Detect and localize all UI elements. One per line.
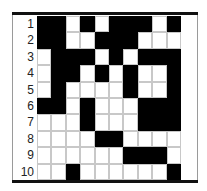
grid-cell[interactable] <box>66 32 80 48</box>
grid-cell[interactable] <box>80 164 94 180</box>
grid-cell[interactable] <box>152 114 166 130</box>
grid-cell[interactable] <box>109 65 123 81</box>
grid-cell[interactable] <box>123 32 137 48</box>
grid-cell[interactable] <box>66 16 80 32</box>
grid-cell[interactable] <box>152 16 166 32</box>
grid-cell[interactable] <box>138 32 152 48</box>
grid-cell[interactable] <box>66 114 80 130</box>
grid-cell[interactable] <box>138 98 152 114</box>
grid-cell[interactable] <box>80 65 94 81</box>
grid-cell[interactable] <box>66 164 80 180</box>
grid-cell[interactable] <box>37 49 51 65</box>
grid-cell[interactable] <box>138 147 152 163</box>
grid-cell[interactable] <box>51 98 65 114</box>
grid-cell[interactable] <box>123 131 137 147</box>
grid-cell[interactable] <box>95 131 109 147</box>
grid-cell[interactable] <box>167 147 181 163</box>
grid-cell[interactable] <box>37 32 51 48</box>
grid-cell[interactable] <box>80 98 94 114</box>
grid-cell[interactable] <box>66 131 80 147</box>
grid-cell[interactable] <box>152 98 166 114</box>
grid-cell[interactable] <box>95 82 109 98</box>
grid-cell[interactable] <box>51 82 65 98</box>
grid-cell[interactable] <box>37 164 51 180</box>
grid-cell[interactable] <box>167 82 181 98</box>
grid-cell[interactable] <box>123 49 137 65</box>
grid-cell[interactable] <box>109 32 123 48</box>
grid-cell[interactable] <box>152 147 166 163</box>
grid-cell[interactable] <box>109 16 123 32</box>
grid-cell[interactable] <box>123 147 137 163</box>
grid-cell[interactable] <box>152 131 166 147</box>
grid-cell[interactable] <box>167 98 181 114</box>
grid-cell[interactable] <box>80 16 94 32</box>
grid-cell[interactable] <box>109 131 123 147</box>
grid-cell[interactable] <box>95 164 109 180</box>
grid-cell[interactable] <box>37 98 51 114</box>
grid-cell[interactable] <box>95 147 109 163</box>
grid-cell[interactable] <box>51 114 65 130</box>
grid-cell[interactable] <box>109 49 123 65</box>
grid-cell[interactable] <box>51 131 65 147</box>
grid-cell[interactable] <box>109 98 123 114</box>
grid-cell[interactable] <box>80 114 94 130</box>
grid-cell[interactable] <box>80 131 94 147</box>
grid-cell[interactable] <box>109 114 123 130</box>
grid-cell[interactable] <box>138 65 152 81</box>
grid-cell[interactable] <box>109 82 123 98</box>
grid-cell[interactable] <box>80 82 94 98</box>
grid-cell[interactable] <box>123 98 137 114</box>
grid-cell[interactable] <box>37 65 51 81</box>
grid-cell[interactable] <box>152 32 166 48</box>
grid-cell[interactable] <box>51 147 65 163</box>
grid-cell[interactable] <box>167 16 181 32</box>
grid-cell[interactable] <box>66 65 80 81</box>
grid-cell[interactable] <box>37 16 51 32</box>
grid-cell[interactable] <box>109 147 123 163</box>
grid-cell[interactable] <box>123 65 137 81</box>
grid-cell[interactable] <box>80 49 94 65</box>
grid-cell[interactable] <box>167 32 181 48</box>
grid-cell[interactable] <box>138 164 152 180</box>
grid-cell[interactable] <box>152 82 166 98</box>
grid-cell[interactable] <box>167 114 181 130</box>
grid-cell[interactable] <box>167 164 181 180</box>
grid-cell[interactable] <box>95 49 109 65</box>
grid-cell[interactable] <box>37 147 51 163</box>
grid-cell[interactable] <box>123 82 137 98</box>
grid-cell[interactable] <box>95 98 109 114</box>
grid-cell[interactable] <box>66 49 80 65</box>
grid-cell[interactable] <box>123 114 137 130</box>
grid-cell[interactable] <box>138 49 152 65</box>
grid-cell[interactable] <box>51 164 65 180</box>
grid-cell[interactable] <box>66 98 80 114</box>
grid-cell[interactable] <box>152 164 166 180</box>
grid-cell[interactable] <box>138 16 152 32</box>
grid-cell[interactable] <box>66 147 80 163</box>
grid-cell[interactable] <box>138 82 152 98</box>
grid-cell[interactable] <box>80 147 94 163</box>
grid-cell[interactable] <box>138 131 152 147</box>
grid-cell[interactable] <box>37 131 51 147</box>
grid-cell[interactable] <box>109 164 123 180</box>
grid-cell[interactable] <box>37 82 51 98</box>
grid-cell[interactable] <box>167 49 181 65</box>
grid-cell[interactable] <box>51 16 65 32</box>
grid-cell[interactable] <box>152 65 166 81</box>
grid-cell[interactable] <box>152 49 166 65</box>
grid-cell[interactable] <box>51 49 65 65</box>
grid-cell[interactable] <box>37 114 51 130</box>
grid-cell[interactable] <box>66 82 80 98</box>
grid-cell[interactable] <box>95 32 109 48</box>
grid-cell[interactable] <box>95 114 109 130</box>
grid-cell[interactable] <box>138 114 152 130</box>
grid-cell[interactable] <box>80 32 94 48</box>
grid-cell[interactable] <box>167 65 181 81</box>
grid-cell[interactable] <box>95 65 109 81</box>
grid-cell[interactable] <box>123 16 137 32</box>
grid-cell[interactable] <box>123 164 137 180</box>
grid-cell[interactable] <box>167 131 181 147</box>
grid-cell[interactable] <box>51 32 65 48</box>
grid-cell[interactable] <box>51 65 65 81</box>
grid-cell[interactable] <box>95 16 109 32</box>
